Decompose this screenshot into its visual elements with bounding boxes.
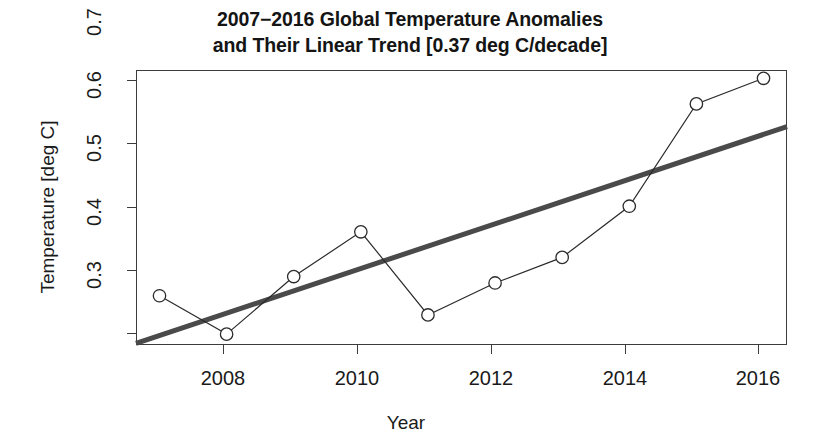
data-point-2008 [220,328,232,340]
x-axis-title: Year [0,412,820,434]
temperature-anomaly-series [159,78,763,334]
x-tick-label-2014: 2014 [603,367,648,390]
chart-title: 2007−2016 Global Temperature Anomalies a… [0,6,820,58]
x-tick-mark-2012 [491,345,492,354]
data-point-2016 [757,72,769,84]
chart-plot-svg [136,70,787,345]
y-tick-label-0.6: 0.6 [83,71,106,99]
x-tick-mark-2016 [758,345,759,354]
chart-title-line-2: and Their Linear Trend [0.37 deg C/decad… [0,32,820,58]
x-tick-label-2016: 2016 [736,367,781,390]
data-point-2009 [288,270,300,282]
y-tick-label-0.3: 0.3 [83,261,106,289]
y-tick-label-0.7: 0.7 [83,8,106,36]
trend-line-series [136,127,787,344]
data-point-2011 [422,309,434,321]
x-tick-label-2010: 2010 [335,367,380,390]
y-axis-title: Temperature [deg C] [37,120,59,293]
y-tick-mark-0.4 [127,270,136,271]
data-point-2013 [556,251,568,263]
x-tick-label-2008: 2008 [201,367,246,390]
x-tick-mark-2008 [223,345,224,354]
x-tick-label-2012: 2012 [469,367,514,390]
y-tick-mark-0.5 [127,207,136,208]
y-tick-label-0.4: 0.4 [83,198,106,226]
chart-screenshot: 2007−2016 Global Temperature Anomalies a… [0,0,820,443]
data-point-2010 [355,226,367,238]
data-point-2007 [153,290,165,302]
y-tick-mark-0.3 [127,333,136,334]
x-tick-mark-2014 [625,345,626,354]
chart-title-line-1: 2007−2016 Global Temperature Anomalies [0,6,820,32]
x-tick-mark-2010 [357,345,358,354]
temperature-anomaly-markers [153,72,769,340]
plot-area [136,70,787,345]
x-axis-title-text: Year [387,412,425,434]
y-tick-label-0.5: 0.5 [83,134,106,162]
data-point-2015 [690,98,702,110]
data-point-2012 [489,277,501,289]
data-point-2014 [623,200,635,212]
y-tick-mark-0.7 [127,80,136,81]
y-tick-mark-0.6 [127,143,136,144]
